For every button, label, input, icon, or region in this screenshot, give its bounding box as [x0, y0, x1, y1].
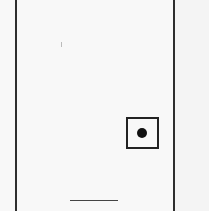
right-border-line: [173, 0, 175, 211]
signature-line: [70, 200, 118, 201]
radio-checkbox[interactable]: [126, 117, 159, 149]
faint-mark: [61, 42, 62, 47]
document-page: [0, 0, 209, 211]
filled-dot-icon: [137, 128, 147, 138]
right-margin: [175, 0, 209, 211]
left-border-line: [15, 0, 17, 211]
